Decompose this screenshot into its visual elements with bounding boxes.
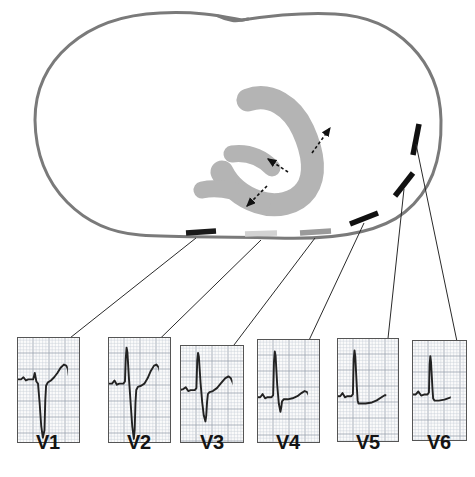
leader-line-v4 [309, 223, 364, 341]
lead-label-v3: V3 [192, 432, 232, 452]
lead-label-v6: V6 [419, 432, 459, 452]
electrode-bar-v1[interactable] [186, 231, 216, 233]
lead-label-v2: V2 [119, 432, 159, 452]
ecg-panel-v6 [412, 340, 467, 441]
electrode-bar-v3[interactable] [300, 231, 331, 233]
ecg-panel-v1 [17, 337, 80, 443]
ecg-paper-v6 [412, 340, 467, 441]
ecg-trace-panels [17, 337, 467, 443]
lead-label-v1: V1 [28, 432, 68, 452]
leader-line-v3 [232, 238, 315, 347]
ecg-grid-v3 [180, 345, 244, 443]
lead-label-v5: V5 [348, 432, 388, 452]
ecg-panel-v2 [108, 337, 171, 443]
ecg-panel-v4 [257, 339, 320, 443]
electrode-bar-v2[interactable] [245, 233, 277, 234]
ecg-panel-v5 [337, 338, 399, 442]
leader-line-v6 [416, 144, 457, 342]
leader-line-v1 [69, 238, 196, 339]
figure-root: V1V2V3V4V5V6 [0, 0, 475, 477]
lead-label-v4: V4 [268, 432, 308, 452]
diagram-canvas [0, 0, 475, 477]
ecg-panel-v3 [180, 345, 244, 443]
